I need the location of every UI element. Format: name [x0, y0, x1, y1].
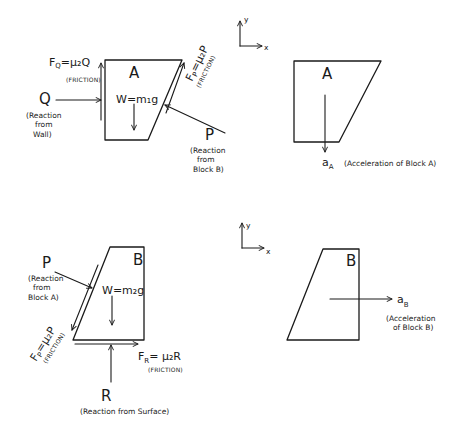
reaction-p-b-label: P (Reaction from Block A)	[28, 254, 64, 302]
svg-text:R: R	[101, 387, 111, 405]
x-axis-b-label: x	[266, 247, 271, 256]
kinematic-block-a: A aA (Acceleration of Block A)	[294, 61, 436, 171]
friction-fp-a-arrow	[166, 63, 184, 113]
free-body-diagram: A W=m₁g FQ=μ₂Q (FRICTION) Q (Reaction fr…	[0, 0, 467, 431]
svg-text:(Acceleration: (Acceleration	[386, 314, 436, 323]
weight-b-label: W=m₂g	[102, 284, 144, 297]
fbd-block-b: B W=m₂g P (Reaction from Block A) FP=μ₂P…	[28, 247, 183, 416]
accel-b-label: aB (Acceleration of Block B)	[386, 293, 436, 332]
reaction-p-a-arrow	[165, 105, 225, 133]
y-axis-label: y	[244, 15, 249, 24]
accel-a-label: aA (Acceleration of Block A)	[322, 156, 436, 171]
kinematic-block-b: B aB (Acceleration of Block B)	[287, 249, 436, 340]
svg-text:(Acceleration of Block A): (Acceleration of Block A)	[344, 159, 436, 168]
axes-a: y x	[240, 15, 269, 52]
axes-b: y x	[242, 221, 271, 256]
svg-text:(Reaction from Surface): (Reaction from Surface)	[80, 407, 169, 416]
svg-text:(Reaction: (Reaction	[28, 274, 64, 283]
svg-text:(FRICTION): (FRICTION)	[148, 366, 183, 373]
svg-text:P: P	[205, 126, 214, 144]
svg-text:from: from	[197, 155, 214, 164]
svg-text:Q: Q	[39, 90, 51, 108]
x-axis-label: x	[264, 43, 269, 52]
svg-text:(Reaction: (Reaction	[26, 111, 62, 120]
block-a-label: A	[129, 64, 140, 82]
friction-fp-b-label: FP=μ₂P (FRICTION)	[28, 324, 66, 368]
reaction-p-a-label: P (Reaction from Block B)	[190, 126, 226, 174]
reaction-q-label: Q (Reaction from Wall)	[26, 90, 62, 139]
svg-text:P: P	[42, 254, 51, 272]
svg-text:aA: aA	[322, 156, 334, 171]
svg-text:FR= μ₂R: FR= μ₂R	[138, 350, 181, 365]
block-b-kin-label: B	[346, 252, 356, 270]
svg-text:from: from	[33, 283, 50, 292]
svg-text:aB: aB	[397, 293, 409, 309]
svg-text:from: from	[35, 120, 52, 129]
svg-text:Block A): Block A)	[28, 293, 59, 302]
svg-text:(Reaction: (Reaction	[190, 146, 226, 155]
friction-fp-a-label: FP=μ₂P (FRICTION)	[182, 43, 218, 88]
block-a-kin-shape	[294, 61, 381, 142]
friction-fq-label: FQ=μ₂Q (FRICTION)	[49, 56, 101, 83]
fbd-block-a: A W=m₁g FQ=μ₂Q (FRICTION) Q (Reaction fr…	[26, 43, 226, 174]
block-b-label: B	[133, 251, 143, 269]
friction-fr-label: FR= μ₂R (FRICTION)	[138, 350, 183, 373]
y-axis-b-label: y	[246, 221, 251, 230]
svg-text:of Block B): of Block B)	[393, 323, 433, 332]
svg-text:Wall): Wall)	[33, 130, 52, 139]
svg-text:Block B): Block B)	[193, 165, 224, 174]
block-a-kin-label: A	[322, 65, 333, 83]
reaction-r-label: R (Reaction from Surface)	[80, 387, 169, 416]
friction-fp-b-arrow	[72, 265, 98, 330]
svg-text:(FRICTION): (FRICTION)	[66, 76, 101, 83]
svg-text:FQ=μ₂Q: FQ=μ₂Q	[49, 56, 90, 70]
weight-a-label: W=m₁g	[116, 93, 158, 106]
